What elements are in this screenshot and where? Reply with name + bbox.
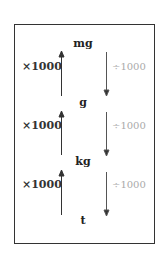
- down-arrow-icon: [104, 112, 109, 156]
- down-arrow-icon: [104, 172, 109, 216]
- down-arrow-icon: [104, 52, 109, 96]
- up-arrow-icon: [59, 111, 64, 155]
- up-arrow-icon: [59, 51, 64, 96]
- arrows: [0, 0, 167, 257]
- up-arrow-icon: [59, 170, 64, 215]
